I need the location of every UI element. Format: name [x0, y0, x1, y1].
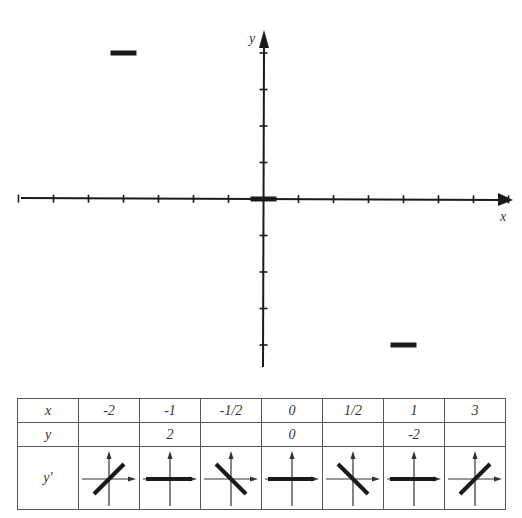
coordinate-plane: [0, 0, 522, 380]
table-cell: 1/2: [323, 399, 384, 423]
table-cell: [323, 423, 384, 447]
y-axis-label: y: [249, 31, 255, 47]
table-cell: 0: [262, 423, 323, 447]
table-cell: 3: [445, 399, 506, 423]
table-cell: 0: [262, 399, 323, 423]
slope-table: x -2 -1 -1/2 0 1/2 1 3 y 2 0 -2 y′: [17, 398, 506, 510]
slope-icon-cell: [201, 447, 262, 510]
table-cell: 1: [384, 399, 445, 423]
table-cell: [445, 423, 506, 447]
table-row-x: x -2 -1 -1/2 0 1/2 1 3: [18, 399, 506, 423]
row-header-y: y: [18, 423, 79, 447]
table-cell: [201, 423, 262, 447]
slope-icon-cell: [384, 447, 445, 510]
x-axis-label: x: [500, 209, 506, 225]
table-cell: -1: [140, 399, 201, 423]
x-axis-arrow-icon: [498, 193, 513, 206]
slope-icon-cell: [140, 447, 201, 510]
slope-glyph-icon: [140, 448, 200, 508]
table-row-y: y 2 0 -2: [18, 423, 506, 447]
table-cell: 2: [140, 423, 201, 447]
slope-icon-cell: [445, 447, 506, 510]
table-cell: [79, 423, 140, 447]
slope-icon-cell: [262, 447, 323, 510]
y-axis-arrow-icon: [259, 30, 269, 48]
slope-glyph-icon: [201, 448, 261, 508]
table-cell: -2: [384, 423, 445, 447]
row-header-x: x: [18, 399, 79, 423]
slope-icon-cell: [79, 447, 140, 510]
slope-field-plot: y x: [0, 0, 522, 380]
slope-glyph-icon: [445, 448, 505, 508]
table-row-y-prime: y′: [18, 447, 506, 510]
table-cell: -1/2: [201, 399, 262, 423]
row-header-y-prime: y′: [18, 447, 79, 510]
slope-glyph-icon: [384, 448, 444, 508]
slope-glyph-icon: [79, 448, 139, 508]
table-cell: -2: [79, 399, 140, 423]
slope-glyph-icon: [323, 448, 383, 508]
slope-glyph-icon: [262, 448, 322, 508]
slope-icon-cell: [323, 447, 384, 510]
